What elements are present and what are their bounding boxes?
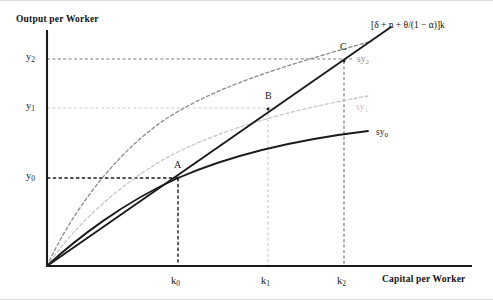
solow-diagram-svg [0,1,493,300]
x-tick-sub-k0: 0 [176,279,180,288]
x-tick-label-k0: k0 [171,276,180,287]
line-breakeven [47,27,391,266]
y-tick-sub-y2: 2 [31,55,35,64]
x-tick-label-k1: k1 [261,276,270,287]
chart-canvas [0,1,493,300]
curve-label-sy2-sub: 2 [365,58,369,66]
point-label-b: B [265,91,272,101]
figure-frame: Output per Worker Capital per Worker y2 … [0,0,493,300]
curve-label-sy1: sy1 [356,103,368,113]
curve-label-sy2: sy2 [357,55,369,65]
point-marker-b [267,108,270,111]
breakeven-line-label: [δ + n + θ/(1 − α)]k [371,21,445,31]
point-marker-c [343,60,346,63]
y-tick-sub-y0: 0 [31,174,35,183]
curve-sy1 [47,96,368,266]
x-tick-sub-k2: 2 [342,279,346,288]
curve-label-sy1-sub: 1 [364,106,368,114]
point-label-c: C [340,42,347,52]
point-label-a: A [174,160,181,170]
y-tick-label-y1: y1 [26,101,35,112]
y-tick-label-y0: y0 [26,171,35,182]
y-axis-title: Output per Worker [16,15,99,25]
y-tick-sub-y1: 1 [31,104,35,113]
curve-label-sy0: sy0 [376,128,388,138]
curve-sy0 [47,131,368,266]
point-marker-a [176,176,179,179]
y-tick-label-y2: y2 [26,52,35,63]
x-axis-title: Capital per Worker [382,275,465,285]
x-tick-sub-k1: 1 [266,279,270,288]
curve-label-sy0-sub: 0 [384,131,388,139]
x-tick-label-k2: k2 [337,276,346,287]
